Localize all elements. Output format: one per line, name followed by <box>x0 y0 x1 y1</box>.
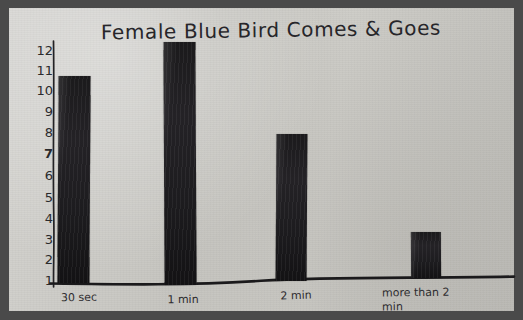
y-tick-11: 11 <box>27 64 53 77</box>
y-tick-8: 8 <box>27 126 53 139</box>
hand-drawn-bar-chart: Female Blue Bird Comes & Goes 12 11 10 9… <box>9 8 514 311</box>
y-tick-3: 3 <box>27 233 53 246</box>
x-tick-30-sec: 30 sec <box>44 290 114 305</box>
bar-1-min <box>163 42 196 285</box>
y-tick-10: 10 <box>27 84 53 97</box>
y-tick-5: 5 <box>27 191 53 204</box>
paper-sheet: Female Blue Bird Comes & Goes 12 11 10 9… <box>9 8 514 311</box>
x-tick-1-min: 1 min <box>148 293 218 307</box>
bar-more-than-2-min <box>411 232 441 278</box>
y-tick-4: 4 <box>27 212 53 225</box>
y-axis-tick-labels: 12 11 10 9 8 7 6 5 4 3 2 1 <box>17 8 53 311</box>
x-tick-more-than-2-min: more than 2 min <box>382 286 468 314</box>
y-tick-2: 2 <box>27 253 53 266</box>
bar-30-sec <box>57 76 90 283</box>
y-tick-6: 6 <box>27 169 53 182</box>
y-tick-1: 1 <box>27 274 53 287</box>
y-tick-7: 7 <box>27 147 53 160</box>
y-tick-12: 12 <box>27 44 53 57</box>
x-tick-2-min: 2 min <box>261 288 331 304</box>
bar-2-min <box>276 134 308 281</box>
y-tick-9: 9 <box>27 105 53 118</box>
y-axis-line <box>53 41 54 287</box>
screenshot-root: Female Blue Bird Comes & Goes 12 11 10 9… <box>0 0 523 320</box>
